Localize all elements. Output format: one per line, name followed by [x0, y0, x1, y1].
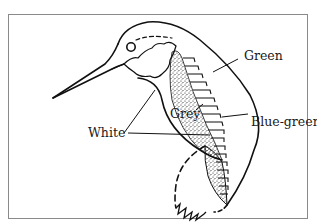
label-green: Green: [244, 50, 283, 63]
eye: [127, 43, 135, 51]
tail-dashed-right: [214, 205, 227, 212]
tail-dashed-line: [175, 146, 205, 208]
bird-diagram: [0, 0, 317, 224]
leader-white: [124, 90, 155, 133]
lower-stippled-patch: [205, 146, 227, 205]
tail-zigzag: [176, 204, 206, 220]
leader-blue-green: [222, 114, 248, 117]
leader-green: [213, 59, 238, 72]
label-blue-green: Blue-green: [251, 116, 317, 129]
bill-gape: [112, 64, 124, 69]
bill-lower: [53, 64, 124, 98]
crown-dashed-line: [136, 36, 172, 40]
label-white: White: [88, 127, 125, 140]
label-grey: Grey: [170, 108, 200, 121]
cheek-outline: [124, 42, 176, 77]
